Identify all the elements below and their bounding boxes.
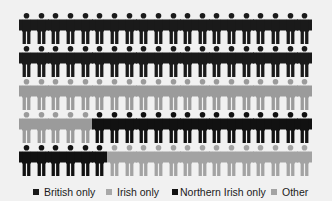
person-icon-british-only [195, 13, 210, 44]
person-icon-british-only [297, 46, 312, 77]
person-icon-irish-only [107, 79, 122, 110]
person-icon-british-only [48, 46, 63, 77]
person-icon-other [195, 145, 210, 176]
person-icon-irish-only [19, 79, 34, 110]
person-icon-british-only [283, 13, 298, 44]
person-icon-northern-irish-only [122, 112, 137, 143]
person-icon-irish-only [92, 79, 107, 110]
person-icon-british-only [224, 13, 239, 44]
legend-swatch [33, 189, 39, 195]
person-icon-irish-only [297, 79, 312, 110]
person-icon-british-only [166, 13, 181, 44]
person-icon-northern-irish-only [136, 112, 151, 143]
person-icon-irish-only [253, 79, 268, 110]
person-icon-british-only [209, 46, 224, 77]
person-icon-british-only [166, 46, 181, 77]
person-icon-british-only [239, 46, 254, 77]
person-icon-northern-irish-only [34, 145, 49, 176]
person-icon-british-only [63, 13, 78, 44]
person-icon-other [297, 145, 312, 176]
legend-label: Irish only [117, 186, 159, 198]
person-icon-irish-only [78, 79, 93, 110]
person-icon-british-only [107, 46, 122, 77]
person-icon-irish-only [34, 79, 49, 110]
person-icon-irish-only [63, 112, 78, 143]
person-icon-other [209, 145, 224, 176]
person-icon-british-only [136, 46, 151, 77]
person-icon-british-only [63, 46, 78, 77]
person-icon-british-only [19, 46, 34, 77]
legend-swatch [106, 189, 112, 195]
person-icon-northern-irish-only [224, 112, 239, 143]
person-icon-irish-only [239, 79, 254, 110]
person-icon-british-only [136, 13, 151, 44]
person-icon-british-only [180, 46, 195, 77]
person-icon-british-only [268, 46, 283, 77]
person-icon-irish-only [19, 112, 34, 143]
person-icon-other [253, 145, 268, 176]
person-icon-irish-only [166, 79, 181, 110]
person-icon-irish-only [195, 79, 210, 110]
person-icon-british-only [297, 13, 312, 44]
person-icon-british-only [78, 13, 93, 44]
pictogram-grid [19, 13, 313, 177]
person-icon-irish-only [78, 112, 93, 143]
person-icon-british-only [92, 13, 107, 44]
legend-label: British only [44, 186, 95, 198]
person-icon-other [136, 145, 151, 176]
legend-item-other: Other [271, 186, 308, 198]
person-icon-other [151, 145, 166, 176]
person-icon-other [166, 145, 181, 176]
legend-label: Other [282, 186, 308, 198]
person-icon-british-only [78, 46, 93, 77]
person-icon-other [268, 145, 283, 176]
person-icon-northern-irish-only [283, 112, 298, 143]
person-icon-irish-only [268, 79, 283, 110]
person-icon-british-only [107, 13, 122, 44]
person-icon-other [180, 145, 195, 176]
person-icon-other [107, 145, 122, 176]
person-icon-northern-irish-only [297, 112, 312, 143]
person-icon-irish-only [283, 79, 298, 110]
person-icon-other [122, 145, 137, 176]
person-icon-british-only [151, 46, 166, 77]
person-icon-northern-irish-only [268, 112, 283, 143]
person-icon-other [283, 145, 298, 176]
person-icon-northern-irish-only [63, 145, 78, 176]
person-icon-irish-only [180, 79, 195, 110]
person-icon-british-only [92, 46, 107, 77]
person-icon-british-only [195, 46, 210, 77]
person-icon-british-only [48, 13, 63, 44]
person-icon-irish-only [151, 79, 166, 110]
person-icon-northern-irish-only [92, 145, 107, 176]
legend-swatch [271, 189, 277, 195]
person-icon-british-only [34, 13, 49, 44]
person-icon-northern-irish-only [253, 112, 268, 143]
person-icon-british-only [122, 46, 137, 77]
person-icon-other [224, 145, 239, 176]
person-icon-northern-irish-only [195, 112, 210, 143]
person-icon-irish-only [224, 79, 239, 110]
person-icon-northern-irish-only [78, 145, 93, 176]
person-icon-british-only [268, 13, 283, 44]
person-icon-british-only [253, 13, 268, 44]
person-icon-northern-irish-only [19, 145, 34, 176]
person-icon-irish-only [34, 112, 49, 143]
person-icon-irish-only [209, 79, 224, 110]
person-icon-irish-only [63, 79, 78, 110]
person-icon-northern-irish-only [48, 145, 63, 176]
legend-label: Northern Irish only [180, 186, 266, 198]
person-icon-northern-irish-only [180, 112, 195, 143]
person-icon-british-only [19, 13, 34, 44]
legend-item-northern-irish-only: Northern Irish only [172, 186, 266, 198]
person-icon-northern-irish-only [239, 112, 254, 143]
person-icon-british-only [224, 46, 239, 77]
person-icon-british-only [253, 46, 268, 77]
person-icon-northern-irish-only [151, 112, 166, 143]
person-icon-british-only [209, 13, 224, 44]
person-icon-irish-only [48, 79, 63, 110]
legend: British only Irish only Northern Irish o… [0, 186, 332, 201]
person-icon-british-only [180, 13, 195, 44]
person-icon-british-only [122, 13, 137, 44]
person-icon-british-only [151, 13, 166, 44]
